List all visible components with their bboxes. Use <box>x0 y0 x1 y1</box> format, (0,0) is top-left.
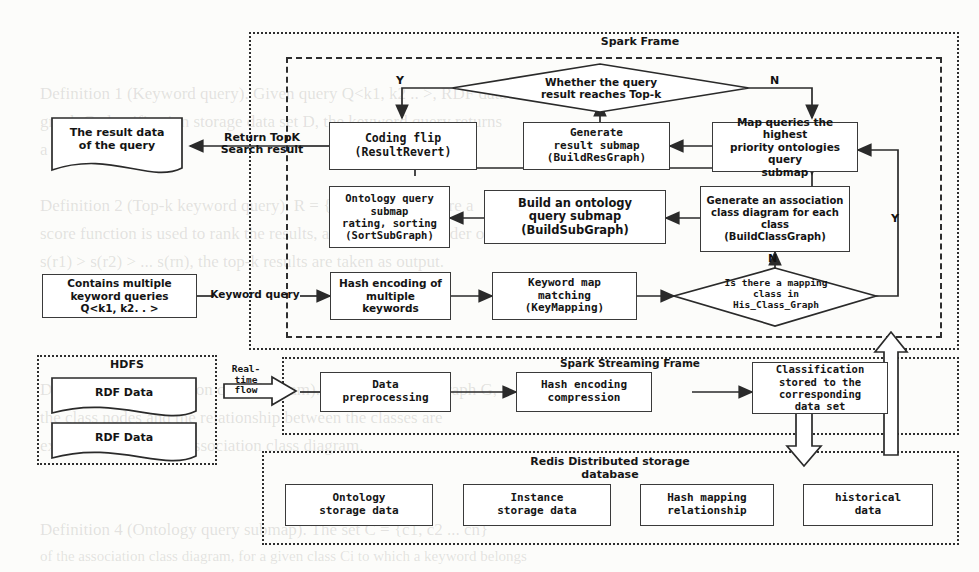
node-classification-store[interactable]: Classification stored to the correspondi… <box>752 362 888 414</box>
node-generate-result-submap-label: Generate result submap (BuildResGraph) <box>547 127 646 166</box>
node-redis-ontology-label: Ontology storage data <box>319 492 398 518</box>
edge-label-return-topk: Return TopK Search result <box>196 132 328 157</box>
node-keyword-map-matching-label: Keyword map matching (KeyMapping) <box>525 277 604 316</box>
node-query-input-label: Contains multiple keyword queries Q<k1, … <box>67 277 171 314</box>
decision-mapping-label: Is there a mapping class in His_Class_Gr… <box>690 278 862 311</box>
node-coding-flip[interactable]: Coding flip (ResultRevert) <box>329 122 477 170</box>
diagram-canvas: Definition 1 (Keyword query). Given quer… <box>0 0 979 572</box>
node-build-submap-label: Build an ontology query submap (BuildSub… <box>518 197 632 238</box>
branch-label-topk-yes: Y <box>396 74 404 87</box>
node-redis-instance-label: Instance storage data <box>497 492 576 518</box>
node-redis-history-label: historical data <box>835 492 901 518</box>
frame-hdfs-label: HDFS <box>67 358 187 371</box>
branch-label-mapping-no: N <box>768 252 777 265</box>
node-map-queries-label: Map queries the highest priority ontolog… <box>716 116 854 178</box>
ghost-line-10: of the association class diagram, for a … <box>40 548 527 565</box>
node-query-input[interactable]: Contains multiple keyword queries Q<k1, … <box>42 274 197 318</box>
rdf-data-2-label: RDF Data <box>52 431 196 444</box>
node-build-submap[interactable]: Build an ontology query submap (BuildSub… <box>484 190 666 244</box>
node-classification-store-label: Classification stored to the correspondi… <box>776 363 865 413</box>
node-keyword-map-matching[interactable]: Keyword map matching (KeyMapping) <box>492 272 637 320</box>
node-generate-result-submap[interactable]: Generate result submap (BuildResGraph) <box>523 122 670 170</box>
node-redis-history[interactable]: historical data <box>803 484 933 526</box>
node-generate-class-diagram[interactable]: Generate an association class diagram fo… <box>700 186 850 252</box>
node-data-preprocessing[interactable]: Data preprocessing <box>320 372 451 412</box>
frame-redis-label: Redis Distributed storage database <box>450 455 770 481</box>
branch-label-mapping-yes: Y <box>891 212 899 225</box>
node-hash-compression[interactable]: Hash encoding compression <box>516 372 652 412</box>
node-hash-encoding-label: Hash encoding of multiple keywords <box>339 277 442 314</box>
rdf-data-1-label: RDF Data <box>52 386 196 399</box>
node-data-preprocessing-label: Data preprocessing <box>342 379 428 405</box>
node-redis-ontology[interactable]: Ontology storage data <box>285 484 433 526</box>
branch-label-topk-no: N <box>770 74 779 87</box>
node-redis-instance[interactable]: Instance storage data <box>463 484 611 526</box>
node-hash-compression-label: Hash encoding compression <box>541 379 627 405</box>
node-generate-class-diagram-label: Generate an association class diagram fo… <box>707 195 844 242</box>
node-ontology-rating[interactable]: Ontology query submap rating, sorting (S… <box>329 186 450 248</box>
frame-hdfs <box>37 355 217 465</box>
frame-streaming-label: Spark Streaming Frame <box>530 357 730 369</box>
node-hash-encoding[interactable]: Hash encoding of multiple keywords <box>330 272 451 320</box>
decision-topk-label: Whether the query result reaches Top-k <box>470 76 732 100</box>
edge-label-realtime-flow: Real- time flow <box>221 364 271 396</box>
node-redis-hashmap-label: Hash mapping relationship <box>667 492 746 518</box>
node-map-queries[interactable]: Map queries the highest priority ontolog… <box>712 122 858 172</box>
node-coding-flip-label: Coding flip (ResultRevert) <box>355 132 452 159</box>
result-document-label: The result data of the query <box>52 126 182 152</box>
node-ontology-rating-label: Ontology query submap rating, sorting (S… <box>342 192 437 242</box>
frame-spark-label: Spark Frame <box>560 35 720 48</box>
node-redis-hashmap[interactable]: Hash mapping relationship <box>640 484 774 526</box>
edge-label-keyword-query: Keyword query <box>200 289 310 301</box>
